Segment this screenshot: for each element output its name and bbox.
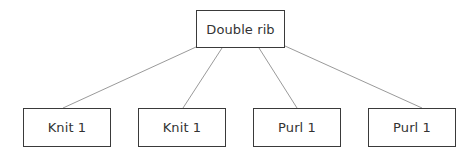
child-node-label: Purl 1 [278, 120, 316, 135]
child-node-knit-1a: Knit 1 [23, 108, 111, 147]
tree-diagram: Double rib Knit 1 Knit 1 Purl 1 Purl 1 [0, 0, 476, 156]
child-node-label: Knit 1 [48, 120, 86, 135]
edge-root-to-purl-1b [285, 46, 422, 108]
root-node-label: Double rib [206, 22, 274, 37]
edge-root-to-knit-1a [63, 47, 196, 108]
edge-root-to-purl-1a [259, 48, 297, 108]
child-node-purl-1b: Purl 1 [368, 108, 456, 147]
child-node-purl-1a: Purl 1 [253, 108, 341, 147]
root-node-double-rib: Double rib [196, 10, 285, 48]
edge-root-to-knit-1b [183, 48, 222, 108]
child-node-label: Knit 1 [163, 120, 201, 135]
child-node-knit-1b: Knit 1 [138, 108, 226, 147]
child-node-label: Purl 1 [393, 120, 431, 135]
